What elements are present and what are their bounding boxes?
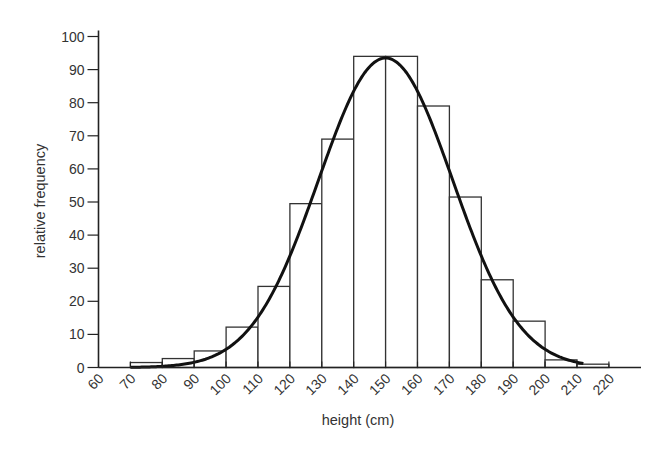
x-tick-label: 170 bbox=[430, 370, 458, 398]
x-tick-label: 60 bbox=[84, 370, 106, 392]
y-tick-label: 0 bbox=[77, 360, 85, 376]
y-tick-label: 80 bbox=[69, 95, 85, 111]
histogram-chart: 0102030405060708090100 60708090100110120… bbox=[0, 0, 671, 450]
x-tick-label: 110 bbox=[239, 370, 266, 397]
histogram-bar bbox=[449, 197, 481, 367]
y-tick-label: 100 bbox=[61, 29, 85, 45]
histogram-bar bbox=[290, 204, 322, 368]
x-tick-label: 90 bbox=[180, 370, 202, 392]
x-tick-label: 150 bbox=[366, 370, 394, 398]
histogram-bar bbox=[322, 139, 354, 367]
x-tick-label: 190 bbox=[493, 370, 521, 398]
y-tick-label: 10 bbox=[69, 326, 85, 342]
y-tick-label: 40 bbox=[69, 227, 85, 243]
y-tick-label: 30 bbox=[69, 260, 85, 276]
x-tick-label: 70 bbox=[116, 370, 138, 392]
x-tick-label: 200 bbox=[525, 370, 553, 398]
x-tick-label: 160 bbox=[398, 370, 426, 398]
y-tick-label: 50 bbox=[69, 194, 85, 210]
y-tick-label: 90 bbox=[69, 62, 85, 78]
x-tick-label: 180 bbox=[462, 370, 490, 398]
x-tick-label: 80 bbox=[148, 370, 170, 392]
histogram-bar bbox=[386, 56, 418, 367]
histogram-bars bbox=[130, 56, 609, 367]
x-tick-label: 120 bbox=[270, 370, 298, 398]
y-tick-label: 60 bbox=[69, 161, 85, 177]
x-tick-label: 100 bbox=[206, 370, 234, 398]
x-tick-label: 140 bbox=[334, 370, 362, 398]
x-tick-label: 130 bbox=[302, 370, 330, 398]
x-tick-label: 220 bbox=[589, 370, 617, 398]
histogram-bar bbox=[258, 286, 290, 367]
y-axis-title: relative frequency bbox=[32, 143, 48, 258]
y-tick-label: 20 bbox=[69, 293, 85, 309]
y-axis-ticks: 0102030405060708090100 bbox=[61, 29, 98, 376]
y-tick-label: 70 bbox=[69, 128, 85, 144]
x-axis-title: height (cm) bbox=[322, 412, 395, 428]
histogram-bar bbox=[418, 106, 450, 367]
x-tick-label: 210 bbox=[557, 370, 585, 398]
histogram-bar bbox=[354, 56, 386, 367]
